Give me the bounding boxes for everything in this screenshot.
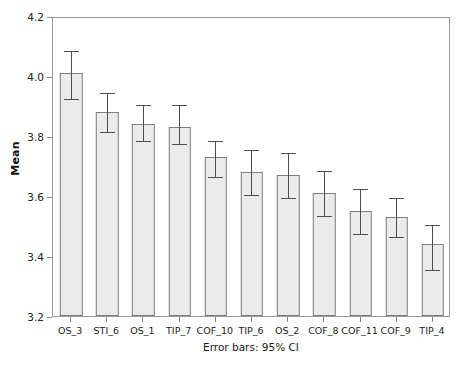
error-bar-cap-upper <box>389 198 404 199</box>
error-bar-cap-upper <box>172 105 187 106</box>
error-bar-cap-upper <box>100 93 115 94</box>
x-axis-tick-mark <box>287 317 288 322</box>
error-bar-cap-upper <box>317 171 332 172</box>
y-axis-title-label: Mean <box>9 141 22 175</box>
bar-group[interactable] <box>415 18 451 316</box>
bar-group[interactable] <box>342 18 378 316</box>
error-bar-line <box>215 141 216 177</box>
error-bar-line <box>107 93 108 132</box>
error-bar-cap-lower <box>208 177 223 178</box>
error-bar-cap-upper <box>136 105 151 106</box>
x-axis-label: OS_3 <box>58 324 82 337</box>
error-bar-line <box>324 171 325 216</box>
bar[interactable] <box>60 73 82 316</box>
bars-layer <box>53 18 449 316</box>
y-axis-tick-label: 4.2 <box>27 9 44 25</box>
error-bar-line <box>432 225 433 270</box>
error-bar-cap-lower <box>64 99 79 100</box>
error-bar-cap-upper <box>64 51 79 52</box>
error-bar-cap-upper <box>244 150 259 151</box>
bar-group[interactable] <box>234 18 270 316</box>
y-axis-title: Mean <box>6 0 24 317</box>
error-bar-cap-upper <box>281 153 296 154</box>
x-axis-label: COF_9 <box>381 324 411 337</box>
x-axis-label: TIP_7 <box>166 324 191 337</box>
error-bar-cap-lower <box>281 198 296 199</box>
bar[interactable] <box>168 127 190 316</box>
y-axis-tick-label: 4.0 <box>27 69 44 85</box>
bar-group[interactable] <box>270 18 306 316</box>
error-bar-cap-lower <box>244 195 259 196</box>
error-bar-cap-upper <box>353 189 368 190</box>
error-bar-cap-lower <box>100 132 115 133</box>
y-axis-tick-label: 3.2 <box>27 309 44 325</box>
bar[interactable] <box>96 112 118 316</box>
x-axis-tick-mark <box>179 317 180 322</box>
x-axis-tick-mark <box>251 317 252 322</box>
error-bar-cap-lower <box>353 234 368 235</box>
chart-footnote: Error bars: 95% CI <box>52 341 450 353</box>
bar[interactable] <box>132 124 154 316</box>
y-axis-tick-mark <box>47 317 52 318</box>
x-axis-label: STI_6 <box>94 324 119 337</box>
error-bar-cap-lower <box>389 237 404 238</box>
error-bar-line <box>179 105 180 144</box>
error-bar-line <box>251 150 252 195</box>
bar[interactable] <box>205 157 227 316</box>
x-axis-tick-mark <box>70 317 71 322</box>
x-axis-label: TIP_6 <box>238 324 263 337</box>
error-bar-cap-lower <box>136 141 151 142</box>
bar-group[interactable] <box>162 18 198 316</box>
x-axis-tick-mark <box>396 317 397 322</box>
error-bar-line <box>143 105 144 141</box>
x-axis-tick-mark <box>360 317 361 322</box>
bar-group[interactable] <box>379 18 415 316</box>
y-axis-tick-label: 3.8 <box>27 129 44 145</box>
error-bar-cap-upper <box>208 141 223 142</box>
plot-area <box>52 17 450 317</box>
error-bar-line <box>396 198 397 237</box>
x-axis-tick-mark <box>432 317 433 322</box>
x-axis-label: OS_2 <box>275 324 299 337</box>
bar-group[interactable] <box>89 18 125 316</box>
error-bar-cap-lower <box>425 270 440 271</box>
error-bar-line <box>71 51 72 99</box>
x-axis-tick-mark <box>142 317 143 322</box>
x-axis-label: COF_8 <box>308 324 338 337</box>
bar-group[interactable] <box>306 18 342 316</box>
bar-chart: Mean 3.23.43.63.84.04.2 OS_3STI_6OS_1TIP… <box>0 0 461 365</box>
y-axis-tick-label: 3.4 <box>27 249 44 265</box>
bar-group[interactable] <box>198 18 234 316</box>
x-axis-label: COF_10 <box>197 324 233 337</box>
error-bar-line <box>288 153 289 198</box>
error-bar-cap-lower <box>172 144 187 145</box>
x-axis-tick-mark <box>323 317 324 322</box>
bar-group[interactable] <box>125 18 161 316</box>
bar-group[interactable] <box>53 18 89 316</box>
x-axis-label: COF_11 <box>341 324 377 337</box>
error-bar-cap-lower <box>317 216 332 217</box>
x-axis-label: TIP_4 <box>419 324 444 337</box>
y-axis-tick-label: 3.6 <box>27 189 44 205</box>
x-axis-label: OS_1 <box>130 324 154 337</box>
error-bar-cap-upper <box>425 225 440 226</box>
error-bar-line <box>360 189 361 234</box>
x-axis-tick-mark <box>215 317 216 322</box>
x-axis-tick-mark <box>106 317 107 322</box>
